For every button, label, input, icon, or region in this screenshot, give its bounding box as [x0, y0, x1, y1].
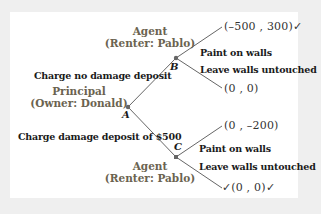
node-b-player: (Renter: Pablo) [98, 37, 202, 49]
payoff-b-paint: (–500 , 300)✓ [224, 20, 302, 33]
edge-b-leave-label: Leave walls untouched [200, 64, 317, 75]
edge-c-leave-label: Leave walls untouched [199, 161, 316, 172]
node-c-role-label: Agent (Renter: Pablo) [98, 160, 202, 184]
edge-a-b-label: Charge no damage deposit [34, 70, 171, 81]
node-c-role: Agent [98, 160, 202, 172]
node-a-role-label: Principal (Owner: Donald) [30, 85, 128, 109]
node-a-role: Principal [30, 85, 128, 97]
node-a-player: (Owner: Donald) [30, 97, 128, 109]
node-b-role-label: Agent (Renter: Pablo) [98, 25, 202, 49]
node-b-dot [174, 56, 178, 60]
edge-a-b [128, 58, 176, 107]
node-b-role: Agent [98, 25, 202, 37]
edge-a-c-label: Charge damage deposit of $500 [18, 131, 181, 142]
node-c-dot [174, 155, 178, 159]
edge-c-paint-label: Paint on walls [199, 143, 271, 154]
payoff-c-paint: (0 , –200) [224, 119, 279, 132]
edge-b-paint-label: Paint on walls [200, 47, 272, 58]
node-c-player: (Renter: Pablo) [98, 172, 202, 184]
node-c-letter: C [174, 141, 182, 152]
payoff-b-leave: (0 , 0) [224, 82, 258, 95]
node-a-letter: A [122, 109, 130, 120]
payoff-c-leave: ✓(0 , 0)✓ [222, 181, 275, 194]
